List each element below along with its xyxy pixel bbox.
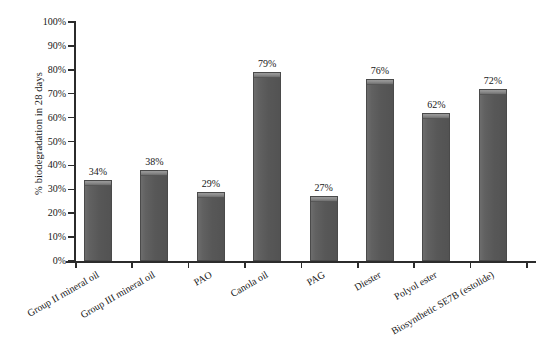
y-axis-tick-mark: [68, 189, 74, 191]
y-axis-tick-mark: [68, 141, 74, 143]
y-axis-tick-label: 10%: [8, 232, 66, 242]
x-axis-tick-mark: [413, 262, 415, 268]
y-axis-tick-mark: [68, 21, 74, 23]
y-axis-tick-mark: [68, 93, 74, 95]
bar: [422, 113, 450, 261]
x-axis-category-label: Polyol ester: [260, 269, 439, 351]
x-axis-tick-mark: [470, 262, 472, 268]
bar-value-label: 79%: [240, 58, 294, 69]
bar: [253, 72, 281, 261]
y-axis-tick-label: 70%: [8, 89, 66, 99]
bar: [479, 89, 507, 261]
x-axis-tick-mark: [357, 262, 359, 268]
y-axis-tick-label: 90%: [8, 41, 66, 51]
x-axis-category-label: Biosynthetic SE7B (estolide): [317, 269, 496, 351]
x-axis-tick-mark: [75, 262, 77, 268]
y-axis-tick-label: 60%: [8, 113, 66, 123]
x-axis-tick-mark: [244, 262, 246, 268]
bar: [366, 79, 394, 261]
bar-top-highlight: [480, 90, 506, 95]
y-axis-tick-mark: [68, 45, 74, 47]
bar-value-label: 29%: [184, 178, 238, 189]
y-axis-tick-label: 0%: [8, 256, 66, 266]
bar-top-highlight: [311, 197, 337, 202]
bar: [197, 192, 225, 261]
bar-value-label: 76%: [353, 65, 407, 76]
bar-value-label: 62%: [409, 99, 463, 110]
x-axis-tick-mark: [188, 262, 190, 268]
bar: [84, 180, 112, 261]
y-axis-tick-label: 50%: [8, 137, 66, 147]
x-axis-tick-mark: [526, 262, 528, 268]
y-axis-tick-label: 20%: [8, 208, 66, 218]
x-axis-tick-mark: [131, 262, 133, 268]
bar-chart: % biodegradation in 28 days 0%10%20%30%4…: [0, 0, 558, 351]
y-axis-tick-mark: [68, 236, 74, 238]
y-axis-tick-label: 100%: [8, 17, 66, 27]
x-axis-category-label: Diester: [204, 269, 383, 351]
y-axis-tick-mark: [68, 69, 74, 71]
bar-top-highlight: [198, 193, 224, 198]
bar-top-highlight: [85, 181, 111, 186]
bar: [310, 196, 338, 261]
y-axis-tick-mark: [68, 165, 74, 167]
x-axis-tick-mark: [301, 262, 303, 268]
bar-value-label: 38%: [127, 156, 181, 167]
x-axis-category-label: PAG: [148, 269, 327, 351]
y-axis-tick-mark: [68, 117, 74, 119]
bar-value-label: 72%: [466, 75, 520, 86]
bar-top-highlight: [367, 80, 393, 85]
bar-top-highlight: [254, 73, 280, 78]
bar-top-highlight: [141, 171, 167, 176]
y-axis-tick-label: 80%: [8, 65, 66, 75]
bar: [140, 170, 168, 261]
y-axis-tick-mark: [68, 260, 74, 262]
x-axis-category-label: Canola oil: [91, 269, 270, 351]
bar-value-label: 34%: [71, 166, 125, 177]
y-axis-tick-mark: [68, 212, 74, 214]
bar-value-label: 27%: [297, 182, 351, 193]
bar-top-highlight: [423, 114, 449, 119]
y-axis-tick-label: 30%: [8, 184, 66, 194]
y-axis-tick-label: 40%: [8, 160, 66, 170]
